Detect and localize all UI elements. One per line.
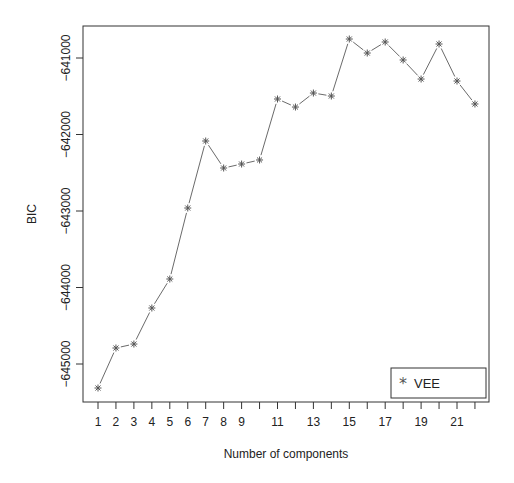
data-point-asterisk-icon	[274, 96, 281, 103]
series-segment	[372, 45, 381, 51]
series-segment	[208, 145, 220, 164]
data-point-asterisk-icon	[364, 50, 371, 57]
series-segment	[136, 312, 149, 339]
legend-asterisk-icon: *	[399, 374, 407, 393]
data-point-asterisk-icon	[202, 138, 209, 145]
data-point-asterisk-icon	[382, 39, 389, 46]
x-tick-label: 7	[202, 415, 209, 429]
data-point-asterisk-icon	[184, 205, 191, 212]
y-tick-label: −642000	[59, 111, 73, 158]
data-point-asterisk-icon	[148, 305, 155, 312]
data-point-asterisk-icon	[346, 36, 353, 43]
series-segment	[441, 48, 455, 76]
data-point-asterisk-icon	[256, 156, 263, 163]
data-point-asterisk-icon	[166, 276, 173, 283]
data-point-asterisk-icon	[112, 345, 119, 352]
series-segment	[154, 283, 167, 303]
y-tick-label: −641000	[59, 34, 73, 81]
series-segment	[353, 42, 363, 50]
plot-frame	[83, 26, 489, 402]
x-tick-label: 5	[166, 415, 173, 429]
series-segment	[171, 213, 186, 274]
y-tick-label: −643000	[59, 187, 73, 234]
x-tick-label: 15	[343, 415, 357, 429]
x-tick-label: 9	[238, 415, 245, 429]
y-axis: −641000−642000−643000−644000−645000	[59, 34, 83, 387]
series-segment	[333, 44, 348, 91]
data-point-asterisk-icon	[130, 341, 137, 348]
data-point-asterisk-icon	[95, 385, 102, 392]
series-segment	[121, 345, 129, 347]
x-tick-label: 21	[450, 415, 464, 429]
x-axis-title: Number of components	[224, 447, 349, 461]
data-point-asterisk-icon	[292, 104, 299, 111]
series-segment	[299, 96, 309, 104]
x-tick-label: 19	[414, 415, 428, 429]
data-point-asterisk-icon	[400, 56, 407, 63]
legend-label-vee: VEE	[414, 376, 440, 391]
series-segment	[229, 165, 237, 167]
x-tick-label: 3	[131, 415, 138, 429]
series-segment	[189, 146, 204, 203]
data-point-asterisk-icon	[220, 165, 227, 172]
x-tick-label: 6	[184, 415, 191, 429]
y-tick-label: −645000	[59, 340, 73, 387]
x-tick-label: 4	[149, 415, 156, 429]
series-segment	[246, 161, 254, 163]
data-point-asterisk-icon	[310, 90, 317, 97]
data-point-asterisk-icon	[436, 41, 443, 48]
bic-line-chart: −641000−642000−643000−644000−645000 1234…	[0, 0, 514, 483]
x-tick-label: 1	[95, 415, 102, 429]
series-segment	[100, 353, 114, 384]
series-vee	[95, 36, 479, 392]
series-segment	[318, 94, 326, 95]
legend: * VEE	[391, 368, 486, 398]
series-segment	[460, 85, 472, 100]
series-segment	[261, 104, 276, 155]
y-tick-label: −644000	[59, 264, 73, 311]
series-segment	[423, 48, 436, 74]
series-segment	[282, 101, 291, 105]
data-point-asterisk-icon	[454, 78, 461, 85]
x-tick-label: 13	[307, 415, 321, 429]
data-point-asterisk-icon	[328, 93, 335, 100]
x-axis: 123456789111315171921	[95, 402, 475, 429]
x-tick-label: 17	[379, 415, 393, 429]
y-axis-title: BIC	[25, 204, 39, 224]
data-point-asterisk-icon	[471, 100, 478, 107]
x-tick-label: 11	[271, 415, 284, 429]
x-tick-label: 8	[220, 415, 227, 429]
series-segment	[407, 64, 418, 76]
data-point-asterisk-icon	[238, 161, 245, 168]
x-tick-label: 2	[113, 415, 120, 429]
data-point-asterisk-icon	[418, 76, 425, 83]
series-segment	[389, 46, 400, 57]
